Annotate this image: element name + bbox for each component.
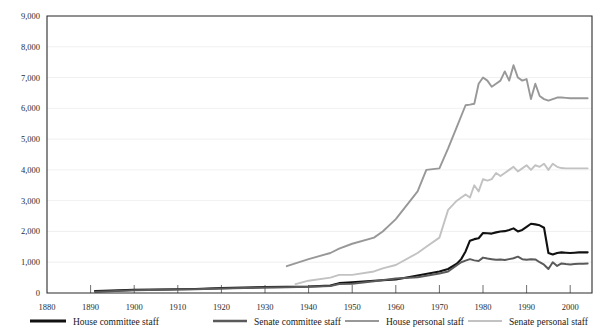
y-axis-tick-label: 1,000 <box>21 257 40 267</box>
y-axis-tick-label: 6,000 <box>21 103 40 113</box>
legend-label-house-committee-staff: House committee staff <box>73 317 160 327</box>
y-axis-tick-label: 8,000 <box>21 42 40 52</box>
x-axis-tick-label: 1900 <box>126 302 143 312</box>
y-axis-tick-label: 9,000 <box>21 11 40 21</box>
chart-container: 01,0002,0003,0004,0005,0006,0007,0008,00… <box>0 0 605 336</box>
x-axis-tick-label: 1990 <box>518 302 535 312</box>
x-axis-tick-label: 1980 <box>475 302 492 312</box>
y-axis-tick-labels: 01,0002,0003,0004,0005,0006,0007,0008,00… <box>21 11 40 298</box>
chart-legend: House committee staffSenate committee st… <box>30 317 589 327</box>
y-axis-tick-label: 0 <box>36 288 40 298</box>
y-axis-tick-label: 4,000 <box>21 165 40 175</box>
x-axis-tick-label: 1920 <box>213 302 230 312</box>
x-axis-tick-labels: 1880189019001910192019301940195019601970… <box>39 302 579 312</box>
data-series-group <box>95 65 588 292</box>
line-chart: 01,0002,0003,0004,0005,0006,0007,0008,00… <box>0 0 605 336</box>
y-axis-tick-label: 7,000 <box>21 73 40 83</box>
plot-border <box>47 16 592 293</box>
legend-label-senate-personal-staff: Senate personal staff <box>509 317 589 327</box>
x-axis-tick-label: 1940 <box>300 302 317 312</box>
gridlines <box>47 16 592 262</box>
y-axis-tick-label: 2,000 <box>21 226 40 236</box>
x-axis-tick-label: 1950 <box>344 302 361 312</box>
series-line-senate-personal-staff <box>296 164 588 284</box>
x-axis-tick-label: 1910 <box>169 302 186 312</box>
x-axis-tick-label: 1960 <box>387 302 404 312</box>
legend-label-house-personal-staff: House personal staff <box>386 317 465 327</box>
plot-frame <box>47 16 592 293</box>
x-axis-tick-label: 2000 <box>562 302 579 312</box>
x-axis-tick-label: 1930 <box>257 302 274 312</box>
y-axis-tick-label: 5,000 <box>21 134 40 144</box>
y-axis-tick-label: 3,000 <box>21 196 40 206</box>
x-axis-tick-label: 1890 <box>82 302 99 312</box>
x-axis-tick-label: 1880 <box>39 302 56 312</box>
legend-label-senate-committee-staff: Senate committee staff <box>254 317 342 327</box>
x-axis-tick-label: 1970 <box>431 302 448 312</box>
